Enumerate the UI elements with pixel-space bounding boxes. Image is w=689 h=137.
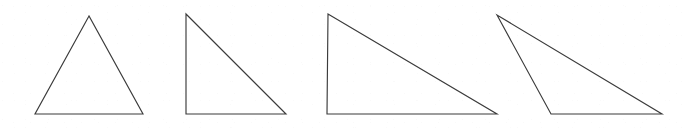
figure-canvas (0, 0, 689, 137)
triangles-svg (0, 0, 689, 137)
